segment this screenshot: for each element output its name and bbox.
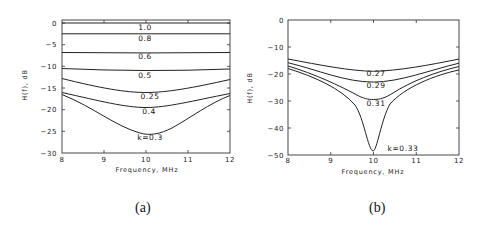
- chart-b-xtick-label: 8: [285, 157, 290, 165]
- chart-b-ytick-label: −30: [267, 98, 284, 106]
- chart-b-curve-label: k=0.33: [388, 144, 419, 153]
- chart-b-ytick-label: −40: [267, 125, 284, 133]
- figure: 0 −5 −10 −15 −20 −25 −30 8 9 10 11 12 Fr…: [0, 0, 480, 232]
- caption-a: (a): [135, 200, 151, 216]
- chart-a-curve-label: 0.6: [138, 52, 152, 61]
- chart-b: 0 −10 −20 −30 −40 −50 8 9 10 11 12 Frequ…: [246, 17, 464, 177]
- chart-b-curve-label: 0.27: [366, 69, 385, 78]
- chart-a-curve-label: 1.0: [138, 23, 152, 32]
- chart-a-ytick-label: −5: [45, 41, 57, 49]
- chart-a-curve-label: 0.5: [138, 71, 152, 80]
- chart-a-xtick-label: 11: [183, 156, 193, 164]
- chart-b-xtick-label: 9: [328, 157, 333, 165]
- chart-a-x-axis-label: Frequency, MHz: [116, 166, 179, 174]
- chart-a-curve-label: 0.25: [140, 92, 159, 101]
- chart-a-curve-label: k=0.3: [137, 133, 163, 142]
- chart-a-curve-label: 0.8: [138, 34, 152, 43]
- chart-b-xtick-label: 10: [368, 157, 378, 165]
- chart-b-curve-label: 0.29: [366, 81, 385, 90]
- chart-b-xtick-label: 11: [411, 157, 421, 165]
- chart-a-y-axis-label: H(f), dB: [21, 69, 29, 100]
- chart-b-y-axis-label: H(f), dB: [246, 72, 254, 103]
- chart-a-xtick-label: 9: [101, 156, 106, 164]
- chart-a-ytick-label: −30: [40, 150, 57, 158]
- chart-a-curve-0.25: [62, 79, 230, 93]
- chart-b-ytick-label: 0: [279, 17, 284, 25]
- chart-a: 0 −5 −10 −15 −20 −25 −30 8 9 10 11 12 Fr…: [21, 20, 235, 175]
- chart-b-ytick-label: −50: [267, 152, 284, 160]
- chart-b-curve-label: 0.31: [366, 99, 385, 108]
- chart-a-ytick-label: −10: [40, 63, 57, 71]
- chart-b-x-axis-label: Frequency, MHz: [342, 168, 405, 176]
- chart-a-xtick-label: 8: [59, 156, 64, 164]
- chart-a-ytick-label: 0: [52, 20, 57, 28]
- chart-a-curve-label: 0.4: [142, 107, 156, 116]
- chart-b-xtick-label: 12: [454, 157, 464, 165]
- caption-b: (b): [369, 200, 385, 216]
- chart-a-ytick-label: −20: [40, 106, 57, 114]
- chart-a-xtick-label: 12: [225, 156, 235, 164]
- chart-a-ytick-label: −15: [40, 85, 57, 93]
- chart-a-xtick-label: 10: [141, 156, 151, 164]
- chart-b-ytick-label: −10: [267, 44, 284, 52]
- chart-b-ytick-label: −20: [267, 71, 284, 79]
- chart-a-ytick-label: −25: [40, 128, 57, 136]
